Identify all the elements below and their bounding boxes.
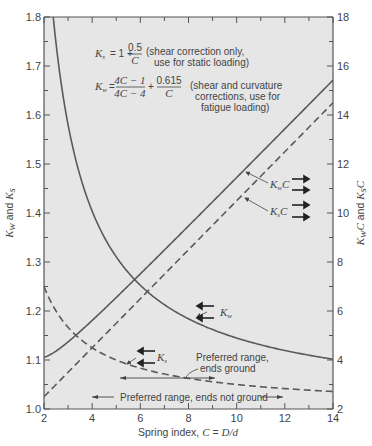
right-y-tick-label: 6 bbox=[337, 305, 343, 317]
svg-text:(shear and curvature: (shear and curvature bbox=[190, 80, 283, 91]
x-tick-label: 6 bbox=[137, 412, 143, 424]
svg-text:+: + bbox=[148, 81, 154, 92]
svg-text:corrections, use for: corrections, use for bbox=[195, 91, 281, 102]
x-tick-label: 8 bbox=[185, 412, 191, 424]
left-y-tick-label: 1.2 bbox=[26, 305, 41, 317]
left-y-tick-label: 1.6 bbox=[26, 109, 41, 121]
right-axis-title: KwC and KsC bbox=[354, 180, 368, 246]
left-y-tick-label: 1.8 bbox=[26, 11, 41, 23]
svg-text:(shear correction only,: (shear correction only, bbox=[146, 46, 244, 57]
right-y-tick-label: 2 bbox=[337, 403, 343, 415]
svg-text:Preferred range, ends not grou: Preferred range, ends not ground bbox=[120, 392, 268, 403]
x-tick-label: 12 bbox=[279, 412, 291, 424]
right-y-tick-label: 10 bbox=[337, 207, 349, 219]
left-axis-title: Kw and Ks bbox=[3, 188, 17, 239]
svg-text:use for static loading): use for static loading) bbox=[154, 57, 249, 68]
plot-area bbox=[44, 17, 333, 409]
svg-text:0.5: 0.5 bbox=[128, 42, 142, 53]
left-y-tick-label: 1.5 bbox=[26, 158, 41, 170]
preferred-range-not-ground: Preferred range, ends not ground bbox=[92, 392, 283, 403]
right-y-tick-label: 4 bbox=[337, 354, 343, 366]
x-tick-label: 2 bbox=[41, 412, 47, 424]
left-y-tick-label: 1.3 bbox=[26, 256, 41, 268]
right-y-tick-label: 12 bbox=[337, 158, 349, 170]
svg-text:Kw and Ks: Kw and Ks bbox=[3, 188, 17, 239]
right-y-tick-label: 8 bbox=[337, 256, 343, 268]
left-y-tick-label: 1.0 bbox=[26, 403, 41, 415]
left-y-tick-label: 1.4 bbox=[26, 207, 41, 219]
right-y-tick-label: 16 bbox=[337, 60, 349, 72]
svg-text:KwC and KsC: KwC and KsC bbox=[354, 180, 368, 246]
svg-text:C: C bbox=[131, 54, 139, 66]
right-y-tick-label: 18 bbox=[337, 11, 349, 23]
right-y-tick-label: 14 bbox=[337, 109, 349, 121]
svg-text:ends ground: ends ground bbox=[200, 363, 256, 374]
left-y-tick-label: 1.7 bbox=[26, 60, 41, 72]
x-tick-label: 10 bbox=[231, 412, 243, 424]
svg-text:C: C bbox=[165, 87, 173, 99]
svg-text:0.615: 0.615 bbox=[156, 75, 181, 86]
x-axis-title: Spring index, C = D/d bbox=[138, 426, 239, 438]
left-y-tick-label: 1.1 bbox=[26, 354, 41, 366]
svg-text:4C − 4: 4C − 4 bbox=[114, 87, 146, 99]
svg-text:Preferred range,: Preferred range, bbox=[196, 352, 269, 363]
svg-text:fatigue loading): fatigue loading) bbox=[201, 102, 269, 113]
svg-text:4C − 1: 4C − 1 bbox=[114, 74, 145, 86]
x-tick-label: 4 bbox=[89, 412, 95, 424]
spring-correction-factor-chart: 24681012141.01.11.21.31.41.51.61.71.8246… bbox=[0, 0, 372, 446]
